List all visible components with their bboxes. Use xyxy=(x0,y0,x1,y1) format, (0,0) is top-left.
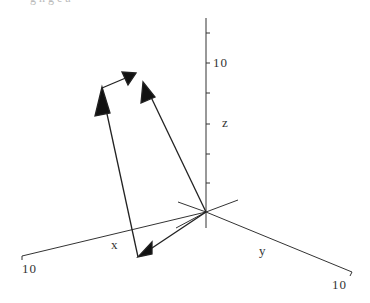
vector-short-top xyxy=(102,77,128,88)
arrowhead-icon xyxy=(95,87,110,116)
y-axis-label: y xyxy=(259,244,267,257)
z-tick-label: 10 xyxy=(213,56,228,69)
vector-up-left xyxy=(104,100,138,257)
y-axis xyxy=(206,212,352,272)
z-axis-label: z xyxy=(222,116,229,129)
3d-vector-diagram: g h g e a xyxy=(0,0,370,303)
diagram-canvas xyxy=(0,0,370,303)
cut-off-caption: g h g e a xyxy=(30,0,71,6)
x-tick-label: 10 xyxy=(22,262,37,275)
vector-origin-to-top xyxy=(150,95,206,212)
x-axis-label: x xyxy=(111,238,119,251)
arrowhead-icon xyxy=(138,242,152,257)
y-tick-label: 10 xyxy=(332,278,347,291)
vector-origin-to-x xyxy=(146,212,206,252)
